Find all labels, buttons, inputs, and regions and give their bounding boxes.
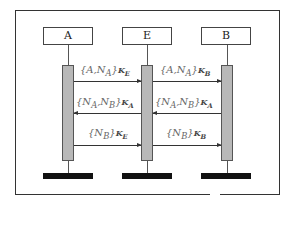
terminator-a <box>43 173 93 179</box>
message-label-2: {A,NA}KB <box>160 64 211 78</box>
message-label-1: {A,NA}KE <box>80 64 130 78</box>
message-arrow-4 <box>153 113 221 114</box>
message-label-3: {NA,NB}KA <box>76 96 134 110</box>
message-label-6: {NB}KB <box>166 127 206 141</box>
terminator-e <box>122 173 172 179</box>
participant-b-box: B <box>201 27 251 45</box>
message-arrow-5 <box>74 145 141 146</box>
message-label-5: {NB}KE <box>88 127 128 141</box>
activation-bar-b <box>221 65 233 161</box>
message-arrow-6 <box>153 145 221 146</box>
terminator-b <box>201 173 251 179</box>
message-arrow-1 <box>74 81 141 82</box>
message-arrow-2 <box>153 81 221 82</box>
message-arrow-3 <box>74 113 141 114</box>
participant-e-box: E <box>122 27 172 45</box>
participant-a-box: A <box>43 27 93 45</box>
message-label-4: {NA,NB}KA <box>155 96 213 110</box>
frame-gap <box>210 192 220 198</box>
